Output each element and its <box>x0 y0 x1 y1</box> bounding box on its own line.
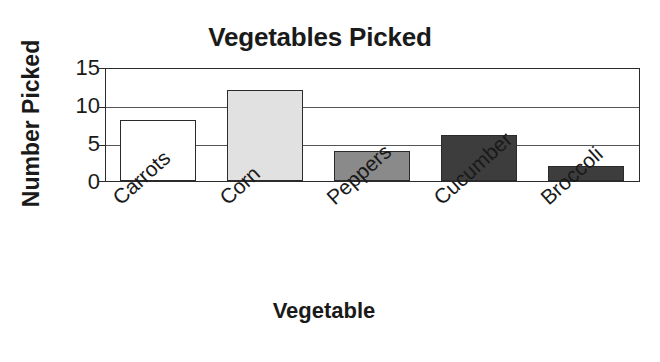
bar-chart-figure: Vegetables Picked Number Picked 15 10 5 … <box>0 0 660 362</box>
x-tick-label-corn: Corn <box>215 162 265 210</box>
x-tick-label-cucumber: Cucumber <box>429 127 517 210</box>
x-tick-label-broccoli: Broccoli <box>536 142 608 210</box>
x-axis-title: Vegetable <box>0 298 660 324</box>
x-tick-label-carrots: Carrots <box>108 146 175 210</box>
x-axis-title-text: Vegetable <box>273 298 376 323</box>
x-tick-label-peppers: Peppers <box>322 140 396 210</box>
